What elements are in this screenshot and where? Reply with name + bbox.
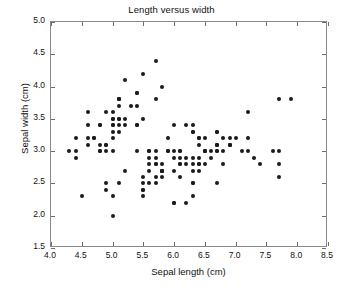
data-point [271,149,275,153]
y-axis-tick [322,22,326,23]
y-axis-tick [322,216,326,217]
x-axis-tick [174,242,175,246]
data-point [86,143,90,147]
x-axis-tick-label: 5.0 [97,250,127,260]
y-axis-tick [322,54,326,55]
y-axis-tick-label: 1.5 [19,241,45,251]
data-point [221,162,225,166]
data-point [67,149,71,153]
data-point [203,162,207,166]
y-axis-tick [51,54,55,55]
data-point [86,123,90,127]
y-axis-tick-label: 5.0 [19,15,45,25]
y-axis-tick-label: 2.0 [19,209,45,219]
data-point [147,181,151,185]
x-axis-tick-label: 4.0 [35,250,65,260]
data-point [172,123,176,127]
x-axis-tick-label: 6.0 [158,250,188,260]
x-axis-tick [205,242,206,246]
x-axis-tick [328,22,329,26]
y-axis-tick-label: 3.0 [19,144,45,154]
data-point [191,130,195,134]
y-axis-tick [322,183,326,184]
data-point [104,149,108,153]
y-axis-tick-label: 4.0 [19,80,45,90]
data-point [135,123,139,127]
x-axis-tick-label: 7.5 [250,250,280,260]
data-point [246,149,250,153]
data-point [215,143,219,147]
data-point [123,169,127,173]
x-axis-tick [297,242,298,246]
data-point [123,117,127,121]
data-point [228,143,232,147]
x-axis-tick-label: 6.5 [189,250,219,260]
data-point [80,194,84,198]
data-point [215,149,219,153]
data-point [228,136,232,140]
data-point [172,149,176,153]
data-point [191,156,195,160]
x-axis-tick [143,22,144,26]
data-point [172,169,176,173]
data-point [252,156,256,160]
x-axis-tick-label: 5.5 [127,250,157,260]
data-point [184,123,188,127]
data-point [166,136,170,140]
data-point [197,169,201,173]
data-point [154,59,158,63]
data-point [141,194,145,198]
data-point [98,149,102,153]
x-axis-tick-label: 7.0 [220,250,250,260]
x-axis-tick [236,22,237,26]
x-axis-tick [82,242,83,246]
data-point [215,181,219,185]
data-point [123,123,127,127]
data-point [258,162,262,166]
y-axis-tick [51,183,55,184]
data-point [184,201,188,205]
data-point [86,136,90,140]
data-point [98,143,102,147]
data-point [246,110,250,114]
y-axis-tick [322,151,326,152]
data-point [111,214,115,218]
data-point [160,85,164,89]
data-point [178,162,182,166]
data-point [74,136,78,140]
data-point [191,194,195,198]
data-point [123,78,127,82]
data-point [191,181,195,185]
data-points-layer [51,22,326,246]
data-point [277,175,281,179]
y-axis-tick [51,22,55,23]
data-point [215,130,219,134]
data-point [154,162,158,166]
data-point [184,156,188,160]
x-axis-tick [82,22,83,26]
data-point [147,169,151,173]
y-axis-tick [322,119,326,120]
data-point [191,123,195,127]
data-point [203,136,207,140]
data-point [135,91,139,95]
data-point [234,136,238,140]
data-point [117,181,121,185]
y-axis-tick-label: 4.5 [19,47,45,57]
y-axis-tick [51,216,55,217]
data-point [154,181,158,185]
x-axis-tick-label: 8.0 [281,250,311,260]
data-point [154,149,158,153]
x-axis-tick [51,242,52,246]
data-point [129,104,133,108]
data-point [197,136,201,140]
x-axis-tick [328,242,329,246]
data-point [104,181,108,185]
data-point [221,136,225,140]
data-point [209,149,213,153]
data-point [92,136,96,140]
data-point [221,149,225,153]
x-axis-tick-label: 4.5 [66,250,96,260]
data-point [166,149,170,153]
data-point [141,188,145,192]
